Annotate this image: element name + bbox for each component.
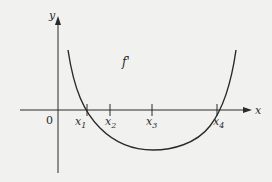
f-prime-curve bbox=[68, 50, 236, 150]
tick-label-x2: x2 bbox=[105, 115, 116, 130]
graph-svg: y x 0 f' x1 x2 x3 x4 bbox=[0, 0, 272, 182]
tick-label-x3: x3 bbox=[146, 115, 157, 130]
curve-label: f' bbox=[121, 55, 130, 69]
origin-label: 0 bbox=[46, 114, 53, 127]
tick-label-x1: x1 bbox=[75, 115, 86, 130]
y-axis-label: y bbox=[48, 9, 56, 22]
x-axis-label: x bbox=[255, 104, 262, 117]
derivative-graph: y x 0 f' x1 x2 x3 x4 bbox=[0, 0, 272, 182]
tick-label-x4: x4 bbox=[213, 115, 224, 130]
x-axis-arrow-icon bbox=[243, 107, 252, 113]
y-axis-arrow-icon bbox=[55, 16, 61, 25]
